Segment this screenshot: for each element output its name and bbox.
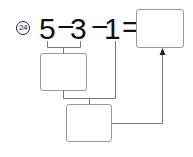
step1-box[interactable] — [40, 53, 87, 91]
operand-5: 5 — [39, 14, 56, 44]
operand-1: 1 — [104, 14, 121, 44]
answer-box[interactable] — [136, 9, 184, 48]
step2-box[interactable] — [66, 104, 112, 142]
operand-3: 3 — [70, 14, 87, 44]
arrow-head-icon — [160, 48, 166, 55]
problem-number: 24 — [16, 21, 30, 35]
